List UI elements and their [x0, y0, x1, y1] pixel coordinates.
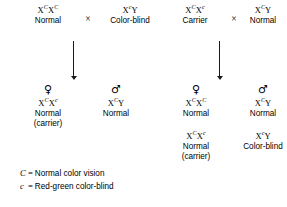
legend-description-c: Red-green color-blind	[35, 182, 114, 191]
genetics-diagram: XCXC Normal × XcY Color-blind ♀ XCXc Nor…	[0, 0, 287, 207]
right-offspring-daughter-1-phenotype: Normal	[164, 109, 228, 118]
right-parent-father-phenotype: Normal	[240, 16, 286, 25]
right-offspring-daughter-2-note: (carrier)	[164, 152, 228, 161]
right-offspring-son-2-phenotype: Color-blind	[227, 142, 287, 151]
left-parent-mother-phenotype: Normal	[16, 16, 80, 25]
legend-symbol-c: c	[20, 180, 27, 192]
right-offspring-daughter-2-genotype: XCXc	[164, 132, 228, 142]
legend-row-recessive: c=Red-green color-blind	[20, 180, 114, 193]
left-offspring-son: XCY Normal	[84, 99, 148, 118]
left-offspring-daughter: XCXc Normal (carrier)	[14, 99, 82, 128]
right-parent-father: XCY Normal	[240, 6, 286, 25]
legend-row-dominant: C=Normal color vision	[20, 167, 114, 180]
right-cross-arrow	[219, 41, 220, 76]
right-offspring-daughter-1-female-icon: ♀	[176, 84, 216, 95]
right-offspring-son-1-genotype: XCY	[231, 99, 287, 109]
right-parent-mother: XCXc Carrier	[163, 6, 227, 25]
left-cross-arrow	[73, 41, 74, 76]
left-offspring-son-phenotype: Normal	[84, 109, 148, 118]
right-offspring-son-2: XcY Color-blind	[227, 132, 287, 151]
left-offspring-daughter-female-icon: ♀	[28, 84, 68, 95]
left-parent-mother-genotype: XCXC	[16, 6, 80, 16]
left-offspring-daughter-note: (carrier)	[14, 119, 82, 128]
legend-description-C: Normal color vision	[35, 169, 105, 178]
allele-legend: C=Normal color vision c=Red-green color-…	[20, 167, 114, 193]
right-offspring-son-1-male-icon: ♂	[243, 84, 283, 95]
legend-equals-0: =	[27, 167, 35, 179]
right-offspring-son-1-phenotype: Normal	[231, 109, 287, 118]
right-cross-symbol: ×	[228, 15, 240, 25]
right-offspring-daughter-1: XCXC Normal	[164, 99, 228, 118]
left-parent-father-phenotype: Color-blind	[94, 16, 166, 25]
left-offspring-son-genotype: XCY	[84, 99, 148, 109]
left-offspring-son-male-icon: ♂	[96, 84, 136, 95]
right-parent-father-genotype: XCY	[240, 6, 286, 16]
legend-symbol-C: C	[20, 167, 27, 179]
left-offspring-daughter-phenotype: Normal	[14, 109, 82, 118]
right-parent-mother-phenotype: Carrier	[163, 16, 227, 25]
right-offspring-son-2-genotype: XcY	[227, 132, 287, 142]
left-parent-father-genotype: XcY	[94, 6, 166, 16]
legend-equals-1: =	[27, 180, 35, 192]
right-parent-mother-genotype: XCXc	[163, 6, 227, 16]
left-parent-mother: XCXC Normal	[16, 6, 80, 25]
left-offspring-daughter-genotype: XCXc	[14, 99, 82, 109]
right-offspring-daughter-2-phenotype: Normal	[164, 142, 228, 151]
right-offspring-daughter-1-genotype: XCXC	[164, 99, 228, 109]
right-offspring-daughter-2: XCXc Normal (carrier)	[164, 132, 228, 161]
left-parent-father: XcY Color-blind	[94, 6, 166, 25]
right-offspring-son-1: XCY Normal	[231, 99, 287, 118]
left-cross-symbol: ×	[82, 15, 94, 25]
